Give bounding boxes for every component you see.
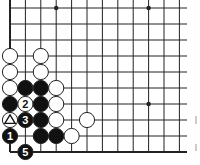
move-number-label: 5 — [22, 146, 28, 158]
black-stone-icon — [49, 128, 64, 143]
black-stone: 3 — [18, 112, 33, 127]
star-point-icon — [54, 6, 58, 10]
white-stone — [79, 112, 94, 127]
black-stone-icon — [33, 80, 48, 95]
star-point-icon — [146, 6, 150, 10]
white-stone-icon — [33, 64, 48, 79]
white-stone-icon — [49, 96, 64, 111]
white-stone — [64, 128, 79, 143]
black-stone: 5 — [18, 144, 33, 159]
white-stone-icon — [2, 80, 17, 95]
white-stone — [2, 112, 17, 127]
black-stone — [18, 80, 33, 95]
move-number-label: 3 — [22, 114, 28, 126]
white-stone — [33, 64, 48, 79]
move-number-label: 1 — [7, 130, 13, 142]
black-stone — [49, 128, 64, 143]
move-number-label: 2 — [22, 98, 28, 110]
white-stone — [2, 64, 17, 79]
star-point-icon — [146, 102, 150, 106]
white-stone-icon — [64, 128, 79, 143]
white-stone — [33, 48, 48, 63]
white-stone: 2 — [18, 96, 33, 111]
white-stone-icon — [2, 48, 17, 63]
white-stone-icon — [79, 112, 94, 127]
white-stone — [49, 96, 64, 111]
go-board-diagram: 2315 — [0, 0, 200, 165]
white-stone-icon — [49, 80, 64, 95]
go-board: 2315 — [0, 0, 200, 165]
black-stone-icon — [18, 80, 33, 95]
black-stone: 1 — [2, 128, 17, 143]
black-stone — [33, 80, 48, 95]
white-stone — [2, 48, 17, 63]
black-stone-icon — [33, 96, 48, 111]
white-stone-icon — [49, 112, 64, 127]
white-stone — [49, 80, 64, 95]
black-stone-icon — [2, 96, 17, 111]
black-stone — [2, 96, 17, 111]
white-stone-icon — [2, 64, 17, 79]
white-stone — [2, 80, 17, 95]
black-stone-icon — [33, 128, 48, 143]
black-stone — [33, 112, 48, 127]
black-stone-icon — [33, 112, 48, 127]
black-stone — [33, 96, 48, 111]
white-stone-icon — [33, 48, 48, 63]
black-stone — [33, 128, 48, 143]
white-stone — [49, 112, 64, 127]
